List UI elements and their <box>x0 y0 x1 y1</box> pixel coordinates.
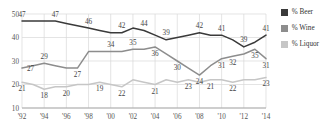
chart-legend: % Beer% Wine% Liquor <box>281 8 319 48</box>
data-point-label: 41 <box>262 25 270 33</box>
data-point-label: 22 <box>118 90 126 98</box>
data-point-label: 31 <box>262 62 270 70</box>
legend-swatch-icon <box>281 9 288 16</box>
legend-label: % Liquor <box>292 40 319 48</box>
data-point-label: 29 <box>41 53 49 61</box>
data-point-label: 20 <box>63 90 71 98</box>
data-point-label: 21 <box>207 83 215 91</box>
y-axis-tick-label: 40 <box>12 34 20 42</box>
data-point-label: 39 <box>240 36 248 44</box>
data-point-label: 27 <box>74 71 82 79</box>
x-axis-tick-label: '00 <box>106 113 115 121</box>
data-point-label: 23 <box>262 80 270 88</box>
data-point-label: 18 <box>41 92 49 100</box>
y-axis-tick-label: 10 <box>12 105 20 113</box>
legend-label: % Beer <box>292 8 313 16</box>
data-point-label: 44 <box>140 20 148 28</box>
x-axis-tick-label: '04 <box>151 113 160 121</box>
data-point-label: 31 <box>218 62 226 70</box>
data-point-label: 41 <box>218 25 226 33</box>
data-point-label: 35 <box>251 52 259 60</box>
x-axis-tick-label: '10 <box>217 113 226 121</box>
data-point-label: 46 <box>85 18 93 26</box>
x-axis-tick-label: '14 <box>262 113 271 121</box>
data-point-label: 22 <box>229 85 237 93</box>
data-point-label: 47 <box>52 11 60 19</box>
data-point-label: 42 <box>196 22 204 30</box>
legend-item-2: % Liquor <box>281 40 319 48</box>
data-point-label: 42 <box>118 22 126 30</box>
data-point-label: 34 <box>107 41 115 49</box>
line-chart: 1020304050'92'94'96'98'00'02'04'06'08'10… <box>0 0 321 130</box>
data-point-label: 23 <box>185 83 193 91</box>
data-point-label: 35 <box>129 39 137 47</box>
legend-label: % Wine <box>292 24 315 32</box>
x-axis-tick-label: '08 <box>195 113 204 121</box>
x-axis-tick-label: '96 <box>62 113 71 121</box>
x-axis-tick-label: '92 <box>18 113 27 121</box>
legend-swatch-icon <box>281 41 288 48</box>
data-point-label: 19 <box>96 85 104 93</box>
data-point-label: 39 <box>163 29 171 37</box>
data-point-label: 21 <box>18 85 26 93</box>
data-point-label: 24 <box>196 78 204 86</box>
x-axis-tick-label: '06 <box>173 113 182 121</box>
x-axis-tick-label: '02 <box>129 113 138 121</box>
data-point-label: 32 <box>229 59 237 67</box>
x-axis-tick-label: '94 <box>40 113 49 121</box>
x-axis-tick-label: '12 <box>240 113 249 121</box>
legend-item-1: % Wine <box>281 24 319 32</box>
legend-item-0: % Beer <box>281 8 319 16</box>
chart-plot-area: 1020304050'92'94'96'98'00'02'04'06'08'10… <box>0 0 321 130</box>
x-axis-tick-label: '98 <box>84 113 93 121</box>
legend-swatch-icon <box>281 25 288 32</box>
data-point-label: 27 <box>27 65 35 73</box>
y-axis-tick-label: 30 <box>12 58 20 66</box>
data-point-label: 21 <box>151 88 159 96</box>
data-point-label: 30 <box>174 64 182 72</box>
data-point-label: 47 <box>18 11 26 19</box>
data-point-label: 36 <box>151 50 159 58</box>
